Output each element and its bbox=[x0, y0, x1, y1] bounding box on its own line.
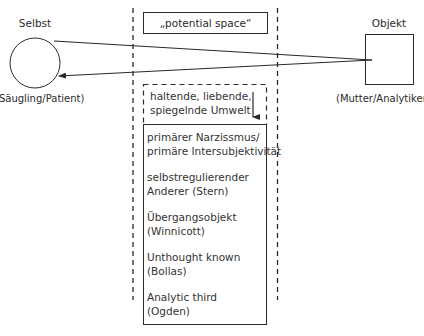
concept-line: (Ogden) bbox=[147, 305, 217, 319]
concept-item: Übergangsobjekt (Winnicott) bbox=[147, 211, 237, 238]
self-caption: (Säugling/Patient) bbox=[0, 92, 75, 105]
object-title: Objekt bbox=[364, 17, 414, 30]
concept-line: Übergangsobjekt bbox=[147, 211, 237, 225]
concept-item: selbstregulierender Anderer (Stern) bbox=[147, 171, 249, 198]
self-title: Selbst bbox=[10, 17, 60, 30]
potential-space-label: „potential space“ bbox=[144, 17, 267, 30]
diagram-canvas bbox=[0, 0, 424, 336]
concept-line: selbstregulierender bbox=[147, 171, 249, 185]
environment-text: haltende, liebende, spiegelnde Umwelt bbox=[150, 90, 252, 117]
concept-line: Analytic third bbox=[147, 291, 217, 305]
object-caption: (Mutter/Analytiker) bbox=[336, 92, 424, 105]
concept-item: primärer Narzissmus/ primäre Intersubjek… bbox=[147, 131, 281, 158]
concept-line: (Bollas) bbox=[147, 265, 240, 279]
self-circle bbox=[10, 38, 60, 88]
arrow-object-to-self bbox=[59, 60, 372, 76]
environment-line-2: spiegelnde Umwelt bbox=[150, 104, 252, 118]
concept-line: primärer Narzissmus/ bbox=[147, 131, 281, 145]
concept-item: Unthought known (Bollas) bbox=[147, 251, 240, 278]
line-self-to-object bbox=[54, 41, 372, 60]
concept-line: Unthought known bbox=[147, 251, 240, 265]
environment-line-1: haltende, liebende, bbox=[150, 90, 252, 104]
concept-item: Analytic third (Ogden) bbox=[147, 291, 217, 318]
concept-line: primäre Intersubjektivität bbox=[147, 145, 281, 159]
object-square bbox=[366, 35, 414, 85]
concept-line: (Winnicott) bbox=[147, 225, 237, 239]
concept-line: Anderer (Stern) bbox=[147, 185, 249, 199]
